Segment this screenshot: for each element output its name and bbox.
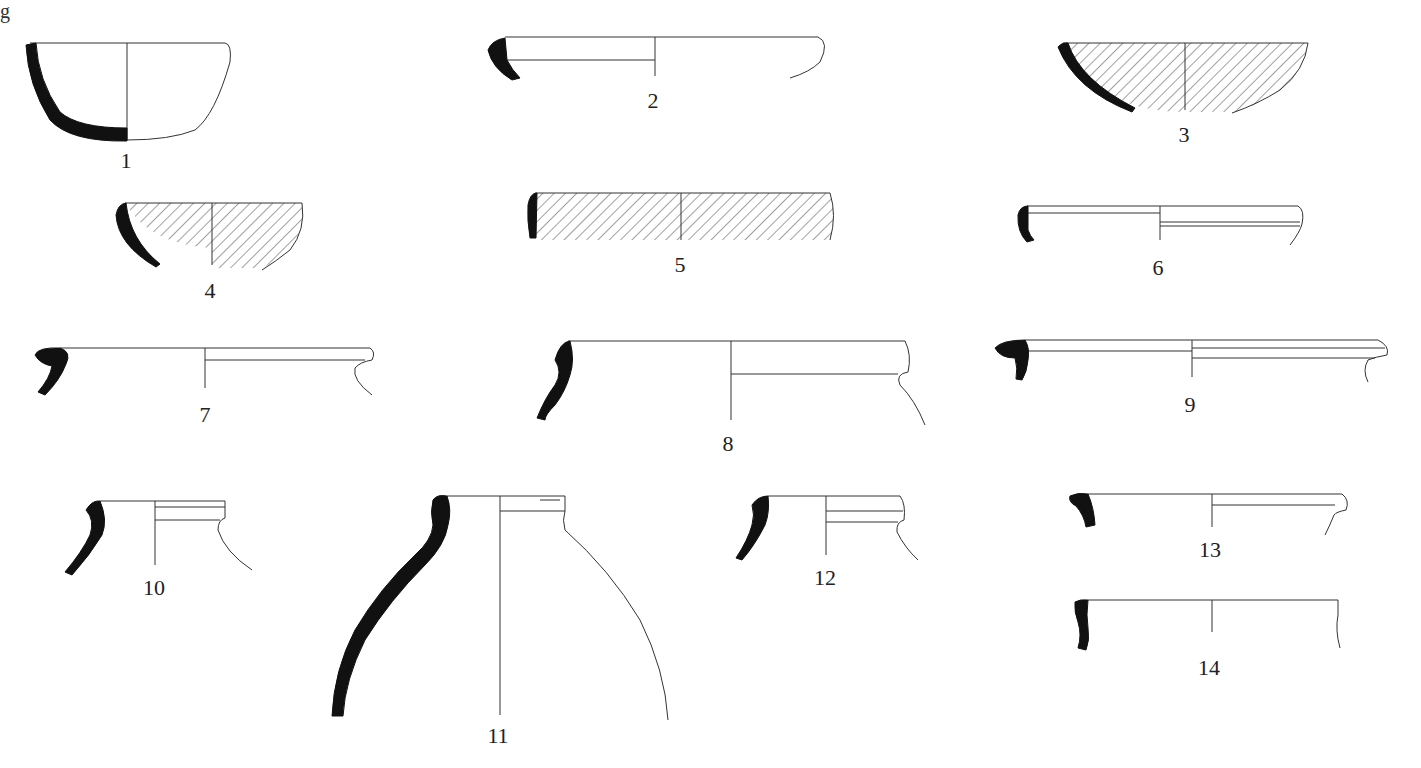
svg-text:6: 6 — [1153, 255, 1164, 280]
svg-text:13: 13 — [1199, 537, 1221, 562]
vessel-11: 11 — [332, 496, 668, 749]
vessel-1: 1 — [26, 43, 230, 173]
svg-text:10: 10 — [143, 575, 165, 600]
vessel-14: 14 — [1075, 600, 1340, 680]
svg-text:2: 2 — [648, 88, 659, 113]
svg-text:14: 14 — [1198, 655, 1220, 680]
svg-text:8: 8 — [723, 431, 734, 456]
vessel-3: 3 — [1058, 43, 1308, 147]
svg-text:12: 12 — [814, 565, 836, 590]
vessel-12: 12 — [736, 496, 918, 590]
vessel-6: 6 — [1018, 206, 1303, 280]
vessel-13: 13 — [1070, 493, 1348, 562]
svg-text:5: 5 — [675, 252, 686, 277]
vessel-8: 8 — [537, 341, 925, 456]
svg-text:1: 1 — [121, 148, 132, 173]
svg-text:3: 3 — [1179, 122, 1190, 147]
vessel-10: 10 — [65, 501, 252, 600]
svg-text:11: 11 — [487, 723, 508, 748]
svg-text:9: 9 — [1185, 392, 1196, 417]
svg-text:4: 4 — [205, 278, 216, 303]
vessel-9: 9 — [995, 340, 1388, 417]
vessel-7: 7 — [35, 348, 374, 427]
vessel-2: 2 — [488, 37, 825, 113]
vessel-5: 5 — [528, 193, 834, 277]
svg-text:7: 7 — [200, 402, 211, 427]
vessel-4: 4 — [116, 203, 303, 303]
pottery-figure: 1 2 3 4 5 6 — [0, 0, 1421, 768]
